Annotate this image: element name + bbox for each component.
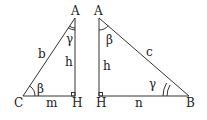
vertex-label-C: C	[14, 96, 23, 110]
side-label-c: c	[146, 45, 153, 59]
angle-arc-gamma-right-2	[167, 85, 170, 96]
right-triangle	[99, 18, 189, 96]
diagram-canvas: A C H b h m β γ A H B c h n β γ	[0, 0, 207, 120]
side-label-h-right: h	[103, 59, 111, 73]
angle-arc-gamma-left-1	[70, 26, 76, 28]
angle-label-beta-right: β	[106, 33, 113, 47]
side-label-b: b	[38, 47, 46, 61]
vertex-label-B: B	[186, 96, 195, 110]
side-label-n: n	[135, 96, 143, 110]
vertex-label-A-left: A	[70, 4, 80, 18]
angle-label-beta-left: β	[37, 82, 44, 96]
angle-arc-beta-left	[30, 86, 35, 96]
angle-label-gamma-left: γ	[66, 32, 73, 46]
vertex-label-H-right: H	[96, 96, 106, 110]
side-label-h-left: h	[65, 55, 73, 69]
angle-arc-gamma-right-1	[163, 83, 167, 96]
right-triangle-diagram: A C H b h m β γ A H B c h n β γ	[0, 0, 207, 120]
angle-arc-beta-right	[99, 26, 108, 30]
right-triangle-outline	[99, 18, 189, 96]
angle-label-gamma-right: γ	[149, 77, 156, 91]
vertex-label-H-left: H	[72, 96, 82, 110]
vertex-label-A-right: A	[93, 4, 103, 18]
side-label-m: m	[46, 96, 58, 110]
